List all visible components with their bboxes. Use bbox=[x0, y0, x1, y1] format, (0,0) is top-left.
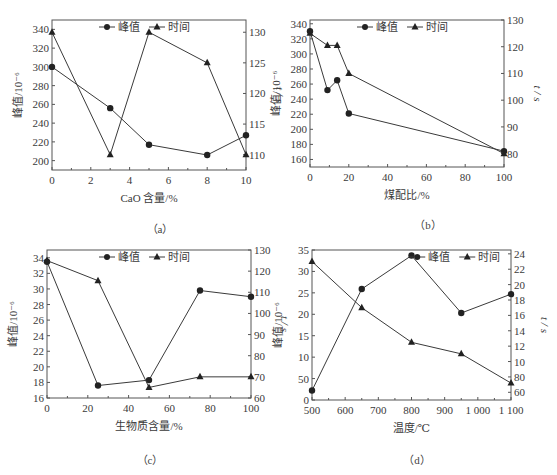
y2-tick-label: 110 bbox=[249, 149, 266, 161]
y2-tick-label: 100 bbox=[254, 307, 271, 319]
y2-tick-label: 80 bbox=[254, 350, 266, 362]
x-tick-label: 10 bbox=[241, 174, 253, 186]
y-tick-label: 50 bbox=[298, 373, 310, 385]
legend-triangle-icon bbox=[154, 23, 161, 30]
circle-marker bbox=[95, 382, 101, 388]
x-tick-label: 0 bbox=[307, 171, 313, 183]
y-tick-label: 10 bbox=[298, 351, 310, 363]
y-tick-label: 220 bbox=[291, 108, 308, 120]
y-tick-label: 18 bbox=[33, 376, 45, 388]
y-tick-label: 30 bbox=[298, 265, 310, 277]
x-tick-label: 1 100 bbox=[499, 404, 524, 416]
triangle-marker bbox=[345, 69, 352, 76]
y2-tick-label: 100 bbox=[507, 94, 524, 106]
circle-marker bbox=[508, 291, 514, 297]
circle-marker bbox=[197, 287, 203, 293]
x-tick-label: 0 bbox=[49, 174, 55, 186]
y-tick-label: 300 bbox=[291, 48, 308, 60]
x-tick-label: 80 bbox=[205, 402, 217, 414]
triangle-marker bbox=[408, 338, 415, 345]
x-axis-label: 温度/℃ bbox=[393, 421, 430, 434]
triangle-marker bbox=[334, 41, 341, 48]
y-tick-label: 25 bbox=[298, 287, 310, 299]
legend-label-peak: 峰值 bbox=[376, 21, 398, 33]
chart-d: 5006007008009001 0001 100050101520253035… bbox=[272, 244, 551, 434]
y2-tick-label: 20 bbox=[514, 279, 526, 291]
y2-tick-label: 110 bbox=[507, 67, 524, 79]
x-axis-label: 生物质含量/% bbox=[115, 419, 182, 432]
y-tick-label: 28 bbox=[33, 299, 45, 311]
y2-tick-label: 130 bbox=[254, 244, 271, 256]
circle-marker bbox=[146, 141, 152, 147]
y2-tick-label: 80 bbox=[507, 148, 519, 160]
y-tick-label: 35 bbox=[298, 244, 310, 256]
y2-tick-label: 130 bbox=[507, 14, 524, 26]
legend-label-time: 时间 bbox=[426, 21, 448, 33]
x-tick-label: 700 bbox=[370, 404, 387, 416]
x-tick-label: 800 bbox=[403, 404, 420, 416]
legend-label-time: 时间 bbox=[168, 21, 190, 33]
series-line-time bbox=[52, 32, 246, 154]
legend: 峰值时间 bbox=[99, 251, 190, 263]
chart-c: 0204060801001618202224262830323460708090… bbox=[7, 244, 291, 432]
y-tick-label: 340 bbox=[291, 18, 308, 30]
y-tick-label: 320 bbox=[33, 42, 50, 54]
x-tick-label: 2 bbox=[88, 174, 94, 186]
caption-d: （d） bbox=[387, 451, 447, 467]
y-tick-label: 200 bbox=[291, 123, 308, 135]
y-tick-label: 16 bbox=[33, 392, 45, 404]
chart-b: 0204060801001601802002202402602803003203… bbox=[270, 14, 544, 201]
series-line-time bbox=[312, 262, 511, 384]
legend-label-peak: 峰值 bbox=[118, 21, 140, 33]
legend-label-peak: 峰值 bbox=[428, 251, 450, 263]
legend-label-time: 时间 bbox=[168, 251, 190, 263]
legend-label-peak: 峰值 bbox=[118, 251, 140, 263]
legend-label-time: 时间 bbox=[478, 251, 500, 263]
x-axis-label: 煤配比/% bbox=[384, 189, 429, 201]
y-axis-label: 峰值/10⁻⁶ bbox=[272, 302, 284, 348]
legend-triangle-icon bbox=[412, 23, 419, 30]
chart-a: 0246810200220240260280300320340110115120… bbox=[12, 20, 286, 204]
y-tick-label: 200 bbox=[33, 155, 50, 167]
triangle-marker bbox=[146, 28, 153, 35]
circle-marker bbox=[107, 105, 113, 111]
x-tick-label: 8 bbox=[204, 174, 210, 186]
y-tick-label: 0 bbox=[304, 394, 310, 406]
y2-axis-label: t / s bbox=[532, 86, 544, 102]
triangle-marker bbox=[197, 373, 204, 380]
circle-marker bbox=[204, 152, 210, 158]
y-tick-label: 15 bbox=[298, 330, 310, 342]
x-tick-label: 1 000 bbox=[465, 404, 490, 416]
circle-marker bbox=[346, 110, 352, 116]
y2-tick-label: 110 bbox=[254, 286, 271, 298]
x-tick-label: 40 bbox=[382, 171, 394, 183]
x-tick-label: 900 bbox=[436, 404, 453, 416]
circle-marker bbox=[359, 286, 365, 292]
y2-tick-label: 130 bbox=[249, 26, 266, 38]
y-tick-label: 22 bbox=[33, 345, 44, 357]
y-tick-label: 340 bbox=[33, 23, 50, 35]
circle-marker bbox=[49, 64, 55, 70]
y-tick-label: 26 bbox=[33, 314, 45, 326]
y2-tick-label: 60 bbox=[514, 386, 526, 398]
legend-circle-icon bbox=[104, 24, 110, 30]
caption-b: （b） bbox=[398, 216, 458, 232]
figure-canvas: 0246810200220240260280300320340110115120… bbox=[0, 0, 557, 475]
circle-marker bbox=[248, 294, 254, 300]
y-axis-label: 峰值/10⁻⁶ bbox=[270, 70, 282, 116]
y2-tick-label: 120 bbox=[249, 87, 266, 99]
y-tick-label: 220 bbox=[33, 136, 50, 148]
y2-tick-label: 60 bbox=[254, 392, 266, 404]
series-line-time bbox=[47, 261, 251, 388]
y2-tick-label: 115 bbox=[249, 118, 266, 130]
x-tick-label: 600 bbox=[337, 404, 354, 416]
y-tick-label: 34 bbox=[33, 252, 45, 264]
y2-tick-label: 10 bbox=[514, 356, 526, 368]
caption-c: （c） bbox=[120, 451, 180, 467]
legend-triangle-icon bbox=[154, 253, 161, 260]
legend: 峰值时间 bbox=[99, 21, 190, 33]
triangle-marker bbox=[324, 41, 331, 48]
y2-tick-label: 80 bbox=[514, 371, 526, 383]
x-tick-label: 6 bbox=[166, 174, 172, 186]
x-tick-label: 20 bbox=[343, 171, 355, 183]
